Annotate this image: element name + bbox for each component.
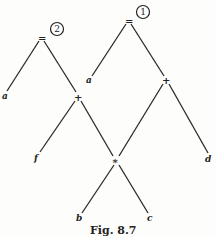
figure-caption: Fig. 8.7 [90, 224, 136, 237]
edge-times-b [82, 165, 114, 213]
edge-t1plus-times [119, 84, 163, 156]
edge-t1plus-d [169, 84, 208, 153]
edge-times-c [119, 165, 148, 213]
edge-t1eq-a [92, 24, 126, 76]
b-node: b [76, 213, 82, 223]
dag-canvas: = 2 a + f = 1 a + d * b c Fig. 8.7 [0, 0, 216, 237]
edge-t2eq-plus [44, 41, 76, 92]
edge-t1eq-plus [131, 24, 164, 76]
t2-a-node: a [2, 91, 8, 101]
t1-assign-node: = [125, 15, 133, 26]
c-node: c [147, 213, 153, 223]
t1-order-number: 1 [140, 7, 146, 17]
edge-t2plus-times [81, 101, 113, 156]
t1-plus-node: + [162, 75, 170, 86]
edge-t2eq-a [7, 41, 39, 91]
edge-t2plus-f [40, 101, 75, 152]
t1-a-node: a [86, 75, 92, 85]
t2-order-number: 2 [54, 24, 60, 34]
t2-f-node: f [33, 153, 40, 163]
expression-dag-figure: = 2 a + f = 1 a + d * b c Fig. 8.7 [0, 0, 216, 237]
t1-d-node: d [205, 154, 212, 164]
times-node: * [113, 157, 119, 168]
t2-assign-node: = [38, 32, 46, 43]
t2-plus-node: + [74, 92, 82, 103]
